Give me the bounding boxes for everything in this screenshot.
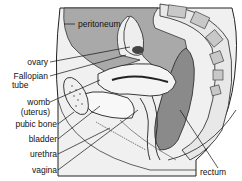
label-urethra: urethra (2, 150, 57, 159)
label-womb-line1: womb (4, 98, 50, 107)
label-vagina: vagina (2, 166, 57, 175)
uterus (98, 64, 176, 96)
label-pubic-bone: pubic bone (2, 120, 57, 129)
label-rectum: rectum (200, 168, 226, 177)
label-peritoneum: peritoneum (78, 20, 121, 29)
label-fallopian-tube-line2: tube (12, 81, 29, 90)
label-womb-line2: (uterus) (4, 108, 50, 117)
label-bladder: bladder (2, 135, 57, 144)
label-ovary: ovary (22, 58, 48, 67)
